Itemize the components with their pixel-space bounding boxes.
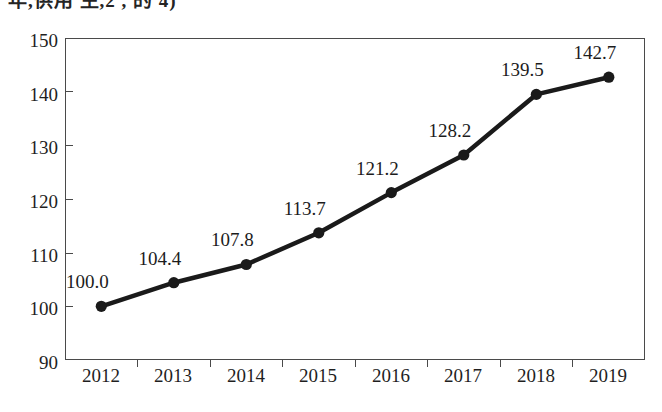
x-tick-label-2019: 2019 bbox=[572, 366, 644, 385]
y-tick-label-150: 150 bbox=[10, 31, 58, 50]
y-tick-marks bbox=[66, 38, 76, 360]
x-tick-label-2013: 2013 bbox=[137, 366, 209, 385]
data-label-2014: 107.8 bbox=[197, 230, 267, 249]
y-axis: 150 140 130 120 110 100 90 bbox=[8, 0, 58, 412]
y-tick-mark-110 bbox=[66, 253, 73, 254]
x-tick-label-2012: 2012 bbox=[65, 366, 137, 385]
x-tick-label-2018: 2018 bbox=[500, 366, 572, 385]
y-tick-label-100: 100 bbox=[10, 299, 58, 318]
x-tick-label-2017: 2017 bbox=[427, 366, 499, 385]
y-tick-label-110: 110 bbox=[10, 246, 58, 265]
x-tick-label-2014: 2014 bbox=[210, 366, 282, 385]
y-tick-label-90: 90 bbox=[10, 353, 58, 372]
y-tick-label-140: 140 bbox=[10, 85, 58, 104]
x-axis: 2012 2013 2014 2015 2016 2017 2018 2019 bbox=[65, 366, 645, 394]
data-label-2018: 139.5 bbox=[487, 60, 557, 79]
data-label-2012: 100.0 bbox=[52, 272, 122, 291]
y-tick-label-130: 130 bbox=[10, 138, 58, 157]
y-tick-mark-100 bbox=[66, 306, 73, 307]
data-label-2015: 113.7 bbox=[270, 199, 340, 218]
data-label-2017: 128.2 bbox=[415, 121, 485, 140]
data-label-2013: 104.4 bbox=[125, 249, 195, 268]
data-label-2019: 142.7 bbox=[560, 43, 630, 62]
y-tick-mark-140 bbox=[66, 91, 73, 92]
y-tick-mark-120 bbox=[66, 199, 73, 200]
plot-area-frame bbox=[65, 38, 645, 360]
data-label-2016: 121.2 bbox=[342, 159, 412, 178]
x-tick-label-2016: 2016 bbox=[355, 366, 427, 385]
y-tick-mark-130 bbox=[66, 145, 73, 146]
y-tick-label-120: 120 bbox=[10, 192, 58, 211]
chart-title-cropped: 年,供用 生,2 , 的 4) bbox=[0, 0, 662, 11]
x-tick-label-2015: 2015 bbox=[282, 366, 354, 385]
